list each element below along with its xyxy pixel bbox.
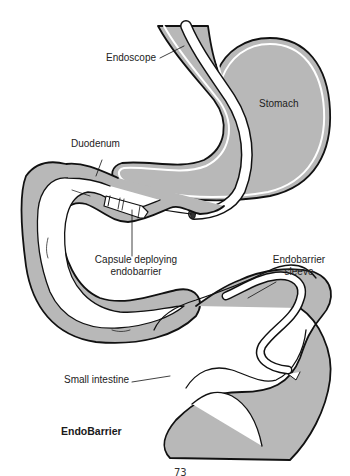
label-duodenum: Duodenum: [71, 138, 120, 150]
endobarrier-anatomy-diagram: [0, 0, 350, 476]
label-capsule-deploying-endobarrier: Capsule deploying endobarrier: [82, 254, 190, 278]
label-small-intestine: Small intestine: [64, 374, 129, 386]
page-number: 73: [174, 468, 187, 476]
figure-title: EndoBarrier: [61, 425, 122, 437]
label-endoscope: Endoscope: [106, 52, 156, 64]
label-capsule-line2: endobarrier: [82, 266, 190, 278]
label-sleeve-line2: sleeve: [266, 266, 332, 278]
label-stomach: Stomach: [259, 98, 298, 110]
label-endobarrier-sleeve: Endobarrier sleeve: [266, 254, 332, 278]
label-capsule-line1: Capsule deploying: [82, 254, 190, 266]
label-sleeve-line1: Endobarrier: [266, 254, 332, 266]
